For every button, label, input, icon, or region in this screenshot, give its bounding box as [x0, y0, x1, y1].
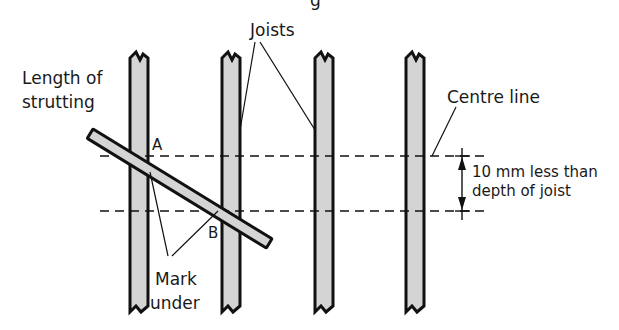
- joists-label: Joists: [249, 20, 295, 40]
- point-b-label: B: [208, 224, 218, 242]
- dimension-label-line1: 10 mm less than: [472, 163, 598, 181]
- joist-1: [130, 52, 148, 312]
- point-a-label: A: [152, 136, 163, 154]
- dimension-arrow: [455, 148, 470, 220]
- joists-leader-1: [240, 42, 255, 130]
- joists-leader-2: [260, 42, 315, 130]
- strutting-diagram: g Joists Length of strutting Centre line…: [0, 0, 619, 330]
- mark-label-line1: Mark: [155, 269, 197, 289]
- strutting-piece: [87, 129, 272, 248]
- centre-line-label: Centre line: [447, 87, 540, 107]
- caption-fragment: g: [310, 0, 321, 10]
- joist-2: [222, 52, 240, 312]
- mark-label-line2: under: [150, 293, 200, 313]
- length-label-line1: Length of: [22, 68, 103, 88]
- dimension-label-line2: depth of joist: [472, 182, 571, 200]
- joist-3: [315, 52, 333, 312]
- centre-line-leader: [432, 107, 456, 156]
- joist-4: [406, 52, 424, 312]
- length-label-line2: strutting: [22, 92, 95, 112]
